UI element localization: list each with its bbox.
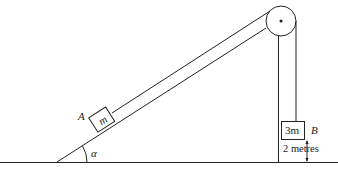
- string-incline: [112, 11, 270, 113]
- block-a-label: A: [78, 111, 85, 122]
- height-label: 2 metres: [283, 144, 319, 155]
- angle-arc: [83, 146, 88, 162]
- angle-label: α: [91, 148, 97, 159]
- pulley-incline-diagram: A m 3m B α 2 metres: [0, 0, 338, 169]
- block-b-label: B: [311, 125, 318, 136]
- block-b-mass: 3m: [285, 125, 299, 136]
- incline-surface: [57, 28, 266, 162]
- pulley-axle: [280, 20, 283, 23]
